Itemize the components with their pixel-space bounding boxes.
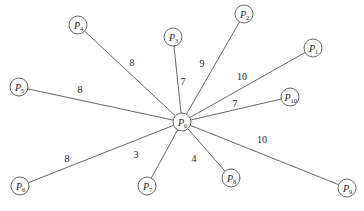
edge-p0-p8 [188,129,225,171]
node-subscript: 0 [184,122,187,129]
node-letter: P [177,117,184,128]
edge-weight-p9: 10 [257,134,267,145]
star-graph-diagram: 109788834107 P1P2P3P4P5P6P7P8P9P10P0 [0,0,364,211]
edge-weight-p3: 7 [181,76,186,87]
node-p7: P7 [138,177,156,195]
edge-weight-p7: 3 [134,149,139,160]
node-letter: P [308,43,315,54]
edge-weight-p1: 10 [237,71,247,82]
node-subscript: 10 [291,97,298,104]
node-letter: P [142,181,149,192]
node-subscript: 9 [349,188,352,195]
node-p4: P4 [69,16,87,34]
edge-p0-p6 [28,125,173,182]
node-p8: P8 [222,169,240,187]
node-letter: P [168,32,175,43]
node-letter: P [284,92,291,103]
node-p10: P10 [281,88,299,106]
node-p9: P9 [338,179,356,197]
nodes-group: P1P2P3P4P5P6P7P8P9P10P0 [10,5,356,197]
node-subscript: 5 [21,87,24,94]
node-p2: P2 [235,5,253,23]
node-p0-center: P0 [173,113,191,131]
edge-weight-p6: 8 [65,153,70,164]
node-subscript: 1 [315,48,318,55]
node-letter: P [239,9,246,20]
edge-p0-p4 [85,31,176,116]
node-p5: P5 [10,78,28,96]
edge-p0-p1 [190,52,305,117]
node-p3: P3 [164,28,182,46]
edge-weight-p5: 8 [78,84,83,95]
node-letter: P [14,82,21,93]
node-subscript: 8 [233,178,236,185]
edge-weights-group: 109788834107 [65,57,268,164]
edge-weight-p4: 8 [130,57,135,68]
node-subscript: 2 [246,14,249,21]
edge-weight-p8: 4 [192,153,197,164]
edge-weight-p2: 9 [200,58,205,69]
node-letter: P [15,181,22,192]
node-letter: P [226,173,233,184]
node-letter: P [73,20,80,31]
node-p6: P6 [11,177,29,195]
edge-weight-p10: 7 [233,98,238,109]
node-subscript: 3 [175,37,178,44]
node-letter: P [342,183,349,194]
edge-p0-p7 [151,130,177,178]
node-p1: P1 [304,39,322,57]
